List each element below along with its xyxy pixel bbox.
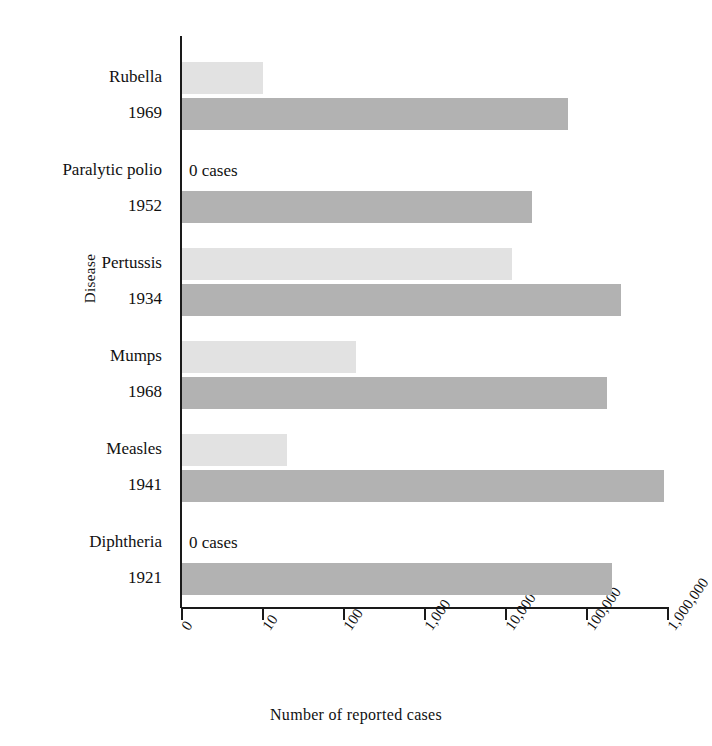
category-label-mumps: Mumps bbox=[0, 346, 172, 366]
peak-year-label-rubella: 1969 bbox=[0, 103, 172, 123]
bar-recent-rubella bbox=[182, 62, 263, 94]
peak-year-label-measles: 1941 bbox=[0, 475, 172, 495]
zero-cases-note-diphtheria: 0 cases bbox=[182, 527, 238, 559]
peak-year-label-pertussis: 1934 bbox=[0, 289, 172, 309]
bar-recent-pertussis bbox=[182, 248, 512, 280]
category-label-paralytic-polio: Paralytic polio bbox=[0, 160, 172, 180]
category-label-rubella: Rubella bbox=[0, 67, 172, 87]
x-tick-label-1000000: 1,000,000 bbox=[664, 575, 712, 634]
peak-year-label-diphtheria: 1921 bbox=[0, 568, 172, 588]
x-axis-title: Number of reported cases bbox=[0, 706, 712, 724]
peak-year-label-paralytic-polio: 1952 bbox=[0, 196, 172, 216]
bar-recent-measles bbox=[182, 434, 287, 466]
category-label-pertussis: Pertussis bbox=[0, 253, 172, 273]
peak-year-label-mumps: 1968 bbox=[0, 382, 172, 402]
disease-cases-bar-chart: Disease 0101001,00010,000100,0001,000,00… bbox=[0, 0, 712, 746]
bar-historic-mumps bbox=[182, 377, 607, 409]
x-tick-label-0: 0 bbox=[178, 618, 196, 634]
bar-historic-rubella bbox=[182, 98, 568, 130]
bar-historic-paralytic-polio bbox=[182, 191, 532, 223]
category-label-diphtheria: Diphtheria bbox=[0, 532, 172, 552]
category-label-measles: Measles bbox=[0, 439, 172, 459]
bar-historic-diphtheria bbox=[182, 563, 612, 595]
bar-historic-measles bbox=[182, 470, 664, 502]
zero-cases-note-paralytic-polio: 0 cases bbox=[182, 155, 238, 187]
bar-recent-mumps bbox=[182, 341, 356, 373]
y-axis-title: Disease bbox=[82, 199, 99, 359]
bar-historic-pertussis bbox=[182, 284, 621, 316]
